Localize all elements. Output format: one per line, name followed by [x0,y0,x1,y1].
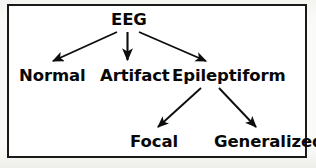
eeg-classification-figure: EEG Normal Artifact Epileptiform Focal G… [0,0,316,168]
node-epileptiform: Epileptiform [172,68,286,85]
node-normal: Normal [19,68,86,85]
node-artifact: Artifact [100,68,170,85]
node-generalized: Generalized [214,134,316,151]
edge-eeg-epileptiform [139,32,206,61]
edge-eeg-normal [53,32,117,61]
edge-epileptiform-focal [158,88,201,127]
edge-epileptiform-generalized [219,88,256,127]
node-eeg: EEG [111,12,147,29]
node-focal: Focal [130,134,178,151]
